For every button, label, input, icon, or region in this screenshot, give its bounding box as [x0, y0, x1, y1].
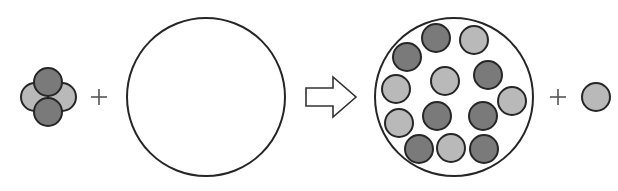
- diagram-stage: [0, 0, 618, 191]
- container-particle-dark: [470, 135, 498, 163]
- plus-sign-2: [550, 89, 566, 105]
- product-particle: [582, 83, 610, 111]
- cluster-particle-dark: [34, 68, 62, 96]
- container-particle-dark: [422, 24, 450, 52]
- container-particle-dark: [405, 135, 433, 163]
- plus-sign-1: [91, 89, 107, 105]
- container-particle-dark: [474, 61, 502, 89]
- empty-container-circle: [127, 18, 285, 176]
- container-particle-light: [385, 109, 413, 137]
- filled-container-circle: [375, 18, 533, 176]
- container-particle-light: [498, 87, 526, 115]
- cluster-particle-dark: [34, 98, 62, 126]
- container-particle-light: [382, 75, 410, 103]
- container-particle-light: [437, 134, 465, 162]
- arrow-outline: [306, 77, 356, 117]
- container-particle-light: [431, 67, 459, 95]
- empty-container-outline: [127, 18, 285, 176]
- container-particle-light: [460, 26, 488, 54]
- container-particle-dark: [423, 102, 451, 130]
- reactant-particle-cluster: [21, 68, 76, 126]
- reaction-diagram: [0, 0, 618, 191]
- released-particle-light: [582, 83, 610, 111]
- container-particle-dark: [469, 102, 497, 130]
- right-arrow-icon: [306, 77, 356, 117]
- container-particle-dark: [393, 43, 421, 71]
